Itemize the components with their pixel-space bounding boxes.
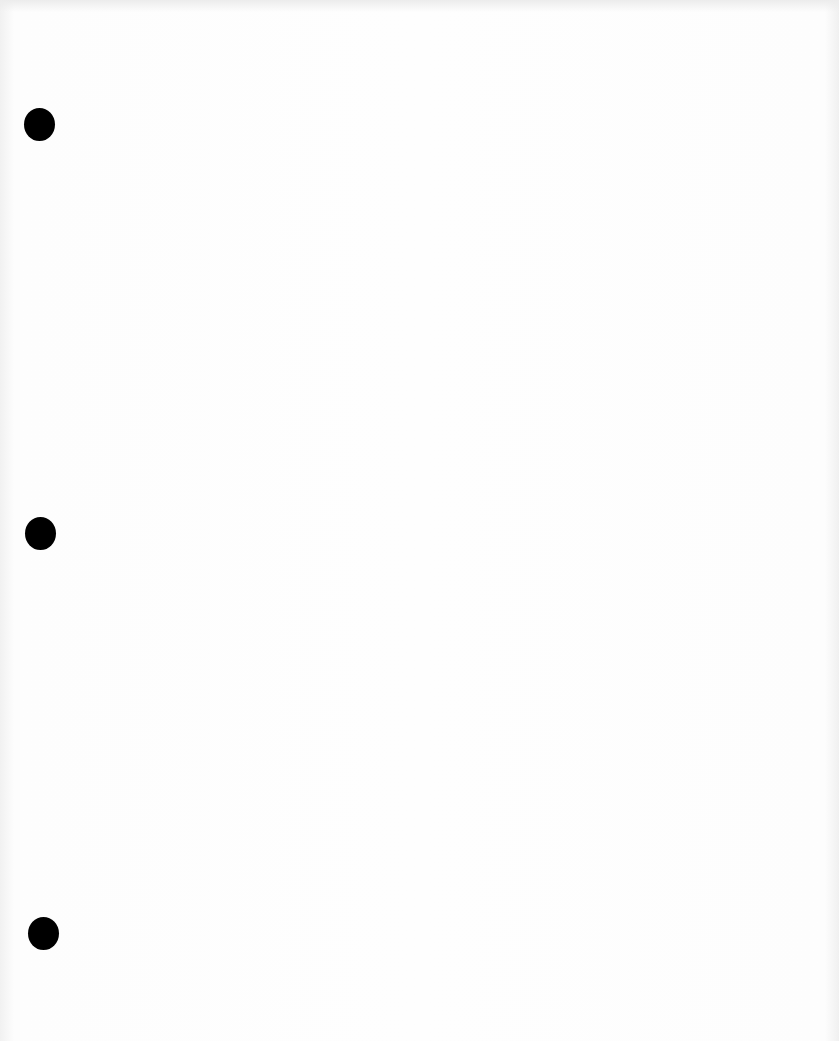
punch-hole-bottom bbox=[28, 917, 59, 950]
punch-hole-middle bbox=[25, 517, 56, 550]
scan-edge-shadow bbox=[0, 0, 839, 12]
blank-page bbox=[0, 0, 839, 1041]
punch-hole-top bbox=[24, 108, 55, 141]
